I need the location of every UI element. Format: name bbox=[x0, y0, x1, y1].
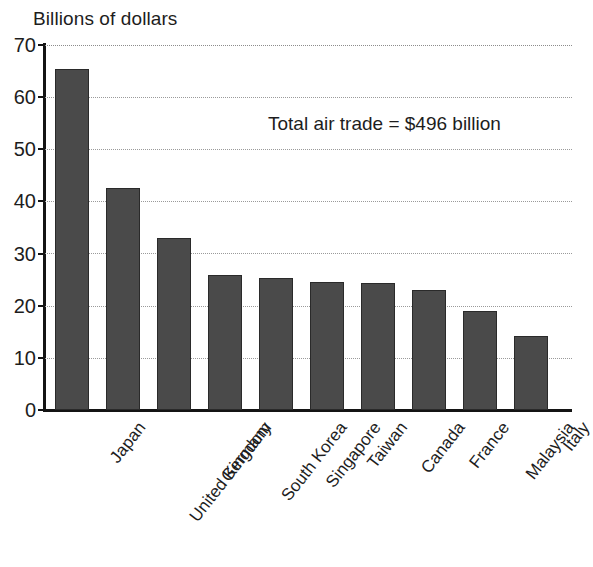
bar-italy[interactable] bbox=[514, 336, 548, 410]
x-tick-label-canada: Canada bbox=[418, 419, 468, 476]
gridline bbox=[45, 149, 572, 150]
y-tick-label: 10 bbox=[2, 348, 36, 368]
bar-singapore[interactable] bbox=[259, 278, 293, 410]
y-tick-label: 0 bbox=[2, 400, 36, 420]
x-tick-label-germany: Germany bbox=[218, 419, 274, 485]
y-tick-label: 40 bbox=[2, 191, 36, 211]
chart-title: Billions of dollars bbox=[33, 8, 177, 30]
bar-france[interactable] bbox=[412, 290, 446, 410]
x-axis-tick-labels: Japan United Kingdom Germany South Korea… bbox=[45, 413, 572, 563]
bar-taiwan[interactable] bbox=[310, 282, 344, 410]
gridline bbox=[45, 97, 572, 98]
bar-united-kingdom[interactable] bbox=[106, 188, 140, 410]
y-tick-label: 60 bbox=[2, 87, 36, 107]
total-air-trade-annotation: Total air trade = $496 billion bbox=[268, 113, 501, 135]
bar-japan[interactable] bbox=[55, 69, 89, 410]
plot-area bbox=[45, 45, 572, 410]
x-tick-label-france: France bbox=[466, 419, 512, 471]
bar-canada[interactable] bbox=[361, 283, 395, 410]
y-tick-label: 70 bbox=[2, 35, 36, 55]
y-axis-tick-labels: 70 60 50 40 30 20 10 0 bbox=[0, 0, 36, 567]
x-tick-label-japan: Japan bbox=[107, 419, 149, 466]
y-tick-label: 20 bbox=[2, 296, 36, 316]
gridline bbox=[45, 45, 572, 46]
bar-germany[interactable] bbox=[157, 238, 191, 410]
y-tick-label: 30 bbox=[2, 244, 36, 264]
bar-malaysia[interactable] bbox=[463, 311, 497, 410]
bar-south-korea[interactable] bbox=[208, 275, 242, 410]
y-tick-label: 50 bbox=[2, 139, 36, 159]
